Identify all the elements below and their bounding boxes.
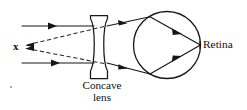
incoming-ray-lower-arrowhead-icon xyxy=(51,60,60,67)
refracted-ray-lower-arrowhead-1-icon xyxy=(118,64,128,69)
concave-lens-caption-line2: lens xyxy=(62,92,142,104)
object-point-mark: x xyxy=(13,40,19,52)
refracted-ray-upper-arrowhead-1-icon xyxy=(118,20,128,25)
refracted-ray-lower-arrowhead-2-icon xyxy=(172,55,182,62)
concave-lens-shape xyxy=(91,16,108,79)
optics-diagram-figure: x Concave lens Retina xyxy=(0,0,247,110)
concave-lens-caption: Concave lens xyxy=(62,80,142,103)
scan-speck xyxy=(10,86,12,88)
concave-lens-caption-line1: Concave xyxy=(62,80,142,92)
retina-label: Retina xyxy=(203,38,233,50)
eyeball-circle xyxy=(134,12,201,79)
refracted-ray-upper-arrowhead-2-icon xyxy=(172,29,182,35)
incoming-ray-upper-arrowhead-icon xyxy=(48,23,57,30)
refracted-rays-group xyxy=(107,17,200,74)
virtual-ray-lower-arrowhead-icon xyxy=(25,46,34,51)
virtual-image-rays-group xyxy=(25,27,104,64)
virtual-ray-lower xyxy=(26,48,104,63)
concave-lens-body xyxy=(91,16,108,79)
virtual-ray-upper xyxy=(26,27,104,46)
